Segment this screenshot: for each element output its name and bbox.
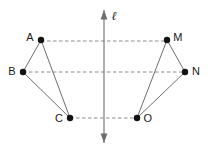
- mirror-line-group: ℓ: [101, 9, 117, 143]
- vertex-label-c: C: [55, 112, 63, 124]
- vertex-point-m: [164, 37, 170, 43]
- vertex-point-a: [38, 37, 44, 43]
- vertex-point-n: [182, 69, 188, 75]
- edge-M-N: [167, 40, 185, 72]
- vertex-point-o: [134, 115, 140, 121]
- vertex-label-b: B: [8, 65, 16, 77]
- vertex-label-o: O: [144, 112, 153, 124]
- mirror-line-arrow-up: [101, 10, 108, 20]
- vertex-label-n: N: [192, 65, 200, 77]
- vertex-label-m: M: [173, 31, 182, 43]
- edge-M-O: [137, 40, 167, 118]
- figure-canvas: ℓ ABCMNO: [0, 0, 210, 150]
- vertex-point-c: [67, 115, 73, 121]
- vertex-label-a: A: [26, 31, 34, 43]
- mirror-line-arrow-down: [101, 134, 108, 144]
- vertex-point-b: [20, 69, 26, 75]
- edge-A-B: [23, 40, 41, 72]
- geometry-figure: ℓ ABCMNO: [0, 0, 210, 150]
- mirror-line-label: ℓ: [112, 9, 117, 23]
- edge-A-C: [41, 40, 70, 118]
